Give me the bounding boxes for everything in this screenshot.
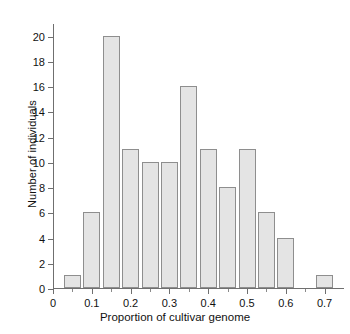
histogram-bar (64, 275, 81, 288)
x-tick-label: 0.3 (162, 297, 177, 309)
x-minor-tick-mark (72, 289, 73, 292)
histogram-bar (219, 187, 236, 288)
x-tick-label: 0 (50, 297, 56, 309)
histogram-bar (258, 212, 275, 288)
histogram-bar (161, 162, 178, 288)
histogram-bar (239, 149, 256, 288)
y-tick-mark (48, 62, 53, 63)
x-axis-label: Proportion of cultivar genome (0, 311, 350, 323)
y-tick-mark (48, 188, 53, 189)
plot-area: 02468101214161820 00.10.20.30.40.50.60.7 (53, 24, 344, 289)
x-tick-mark (286, 289, 287, 294)
x-minor-tick-mark (228, 289, 229, 292)
y-tick-mark (48, 112, 53, 113)
y-tick-label: 2 (39, 258, 45, 270)
x-tick-label: 0.5 (239, 297, 254, 309)
y-tick-mark (48, 264, 53, 265)
x-tick-label: 0.2 (123, 297, 138, 309)
x-tick-mark (325, 289, 326, 294)
x-tick-mark (208, 289, 209, 294)
y-tick-label: 18 (33, 56, 45, 68)
y-tick-label: 16 (33, 81, 45, 93)
x-tick-mark (247, 289, 248, 294)
y-tick-label: 8 (39, 182, 45, 194)
x-tick-label: 0.7 (317, 297, 332, 309)
histogram-bar (277, 238, 294, 288)
histogram-bar (122, 149, 139, 288)
x-minor-tick-mark (111, 289, 112, 292)
y-tick-mark (48, 37, 53, 38)
x-minor-tick-mark (150, 289, 151, 292)
x-tick-label: 0.4 (201, 297, 216, 309)
x-tick-mark (169, 289, 170, 294)
y-tick-label: 14 (33, 106, 45, 118)
histogram-bar (180, 86, 197, 288)
y-tick-mark (48, 138, 53, 139)
x-minor-tick-mark (189, 289, 190, 292)
y-tick-label: 0 (39, 283, 45, 295)
histogram-chart: Number of individuals 02468101214161820 … (0, 0, 350, 334)
y-tick-label: 6 (39, 207, 45, 219)
histogram-bar (142, 162, 159, 288)
y-tick-mark (48, 87, 53, 88)
histogram-bar (200, 149, 217, 288)
y-tick-label: 20 (33, 31, 45, 43)
x-minor-tick-mark (305, 289, 306, 292)
x-tick-mark (131, 289, 132, 294)
x-minor-tick-mark (266, 289, 267, 292)
y-tick-label: 4 (39, 233, 45, 245)
y-tick-label: 10 (33, 157, 45, 169)
y-tick-mark (48, 239, 53, 240)
x-tick-mark (92, 289, 93, 294)
x-axis-line (53, 288, 344, 289)
x-tick-mark (53, 289, 54, 294)
y-tick-mark (48, 163, 53, 164)
x-tick-label: 0.6 (278, 297, 293, 309)
histogram-bar (83, 212, 100, 288)
histogram-bar (103, 36, 120, 288)
y-tick-label: 12 (33, 132, 45, 144)
y-axis-line (53, 24, 54, 289)
x-tick-label: 0.1 (84, 297, 99, 309)
y-tick-mark (48, 213, 53, 214)
histogram-bar (316, 275, 333, 288)
